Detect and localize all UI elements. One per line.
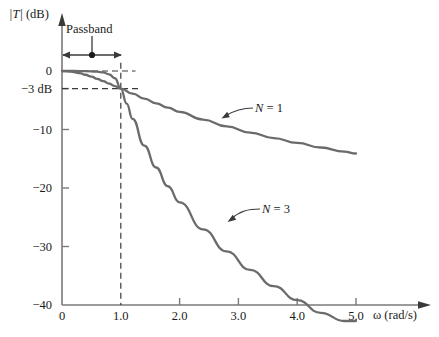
x-tick-label-0: 0 bbox=[59, 310, 65, 323]
y-axis-unit: (dB) bbox=[26, 7, 49, 21]
curve-label-n3: N = 3 bbox=[262, 203, 290, 216]
cutoff-guide-lines bbox=[62, 63, 138, 305]
x-tick-label-1: 1.0 bbox=[113, 310, 129, 323]
x-tick-label-3: 3.0 bbox=[231, 310, 247, 323]
curve-label-n1-value: = 1 bbox=[266, 101, 282, 115]
y-axis-arrowhead bbox=[58, 13, 65, 26]
curve-label-n3-value: = 3 bbox=[273, 202, 289, 216]
data-curves bbox=[62, 71, 356, 321]
curve-label-leader-arrows bbox=[222, 108, 261, 222]
x-axis-title: ω (rad/s) bbox=[373, 309, 417, 322]
curve-n3 bbox=[62, 71, 356, 321]
y-tick-label-5: −40 bbox=[0, 299, 52, 312]
y-tick-label-2: −10 bbox=[0, 123, 52, 136]
x-axis-arrowhead bbox=[418, 301, 431, 308]
passband-arrow-annotation bbox=[62, 36, 122, 58]
bode-magnitude-plot-figure: |T| (dB) ω (rad/s) 0−3 dB−10−20−30−4001.… bbox=[0, 0, 439, 337]
y-tick-label-1: −3 dB bbox=[0, 82, 52, 95]
curve-n1 bbox=[62, 71, 356, 153]
y-tick-label-3: −20 bbox=[0, 182, 52, 195]
x-tick-label-5: 5.0 bbox=[348, 310, 364, 323]
leader-line-n3 bbox=[231, 209, 260, 219]
y-tick-label-4: −30 bbox=[0, 240, 52, 253]
curve-label-n1: N = 1 bbox=[255, 102, 283, 115]
y-tick-label-0: 0 bbox=[0, 65, 52, 78]
x-tick-label-2: 2.0 bbox=[172, 310, 188, 323]
y-axis-ticks bbox=[62, 71, 69, 247]
leader-arrowhead-n1 bbox=[222, 112, 230, 119]
passband-label: Passband bbox=[66, 23, 113, 36]
x-axis-ticks bbox=[180, 298, 356, 305]
x-tick-label-4: 4.0 bbox=[289, 310, 305, 323]
leader-line-n1 bbox=[225, 108, 253, 116]
plot-canvas bbox=[0, 0, 439, 337]
y-axis-title: |T| (dB) bbox=[9, 8, 49, 21]
